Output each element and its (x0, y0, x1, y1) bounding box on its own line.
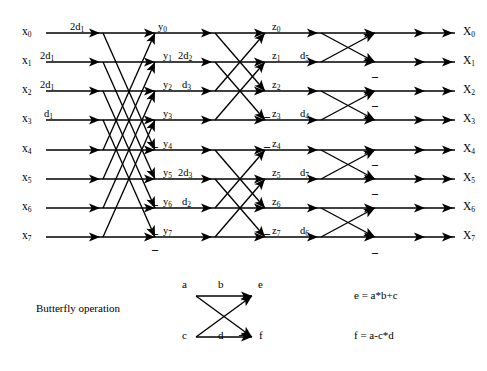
legend-butterfly (0, 0, 487, 371)
diagram-canvas: x0x1x2x3x4x5x6x7X0X1X2X3X4X5X6X72d12d12d… (0, 0, 487, 371)
